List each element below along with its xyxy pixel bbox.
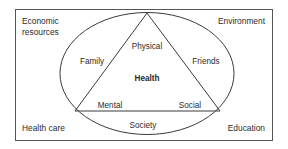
corner-label-health-care: Health care — [22, 123, 65, 133]
triangle-label-physical: Physical — [132, 42, 163, 51]
triangle-label-mental: Mental — [98, 101, 123, 110]
corner-label-education: Education — [228, 123, 266, 133]
ellipse-label-family: Family — [80, 57, 105, 66]
ellipse-label-friends: Friends — [192, 57, 219, 66]
corner-label-economic-resources-line1: Economic — [22, 16, 59, 26]
triangle-label-health: Health — [134, 74, 159, 83]
health-model-diagram: Economic resources Environment Health ca… — [0, 0, 288, 149]
corner-label-environment: Environment — [218, 16, 266, 26]
ellipse-label-society: Society — [130, 121, 158, 130]
triangle-label-social: Social — [179, 101, 201, 110]
diagram-canvas: Economic resources Environment Health ca… — [0, 0, 288, 149]
corner-label-economic-resources-line2: resources — [22, 27, 59, 37]
